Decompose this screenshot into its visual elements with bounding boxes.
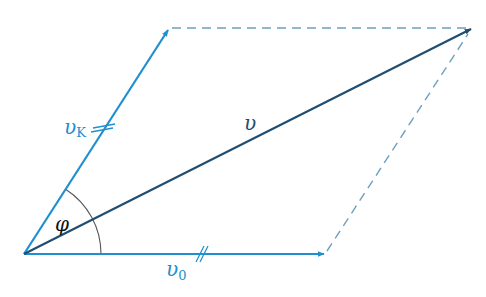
vector-v xyxy=(24,29,471,254)
label-v-0: υ0 xyxy=(166,257,186,283)
vector-v-k xyxy=(24,30,168,254)
label-v-k: υK xyxy=(64,115,86,140)
label-v: υ xyxy=(244,111,256,135)
label-phi: φ xyxy=(55,212,69,236)
angle-arc xyxy=(66,189,101,254)
parallelogram-diagram: υK υ υ0 φ xyxy=(0,0,486,297)
